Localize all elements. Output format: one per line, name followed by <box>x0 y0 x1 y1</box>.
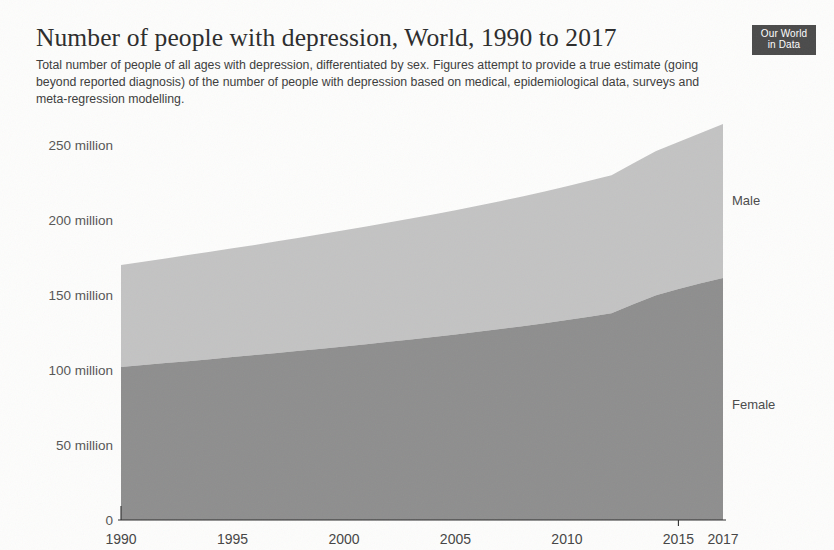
chart-svg: 050 million100 million150 million200 mil… <box>0 0 834 550</box>
x-axis: 1990199520002005201020152017 <box>105 520 738 547</box>
series-label-female: Female <box>732 397 775 412</box>
x-tick-label: 2017 <box>707 531 738 547</box>
chart-page: Number of people with depression, World,… <box>0 0 834 550</box>
y-tick-label: 200 million <box>48 213 113 228</box>
x-tick-label: 2015 <box>663 531 694 547</box>
y-tick-label: 50 million <box>56 438 113 453</box>
stacked-area-chart: 050 million100 million150 million200 mil… <box>0 0 834 550</box>
x-tick-label: 1990 <box>105 531 136 547</box>
y-tick-label: 100 million <box>48 363 113 378</box>
y-tick-label: 0 <box>105 513 113 528</box>
y-tick-label: 250 million <box>48 138 113 153</box>
x-tick-label: 1995 <box>217 531 248 547</box>
series-label-male: Male <box>732 193 760 208</box>
area-bands <box>121 124 723 520</box>
x-tick-label: 2005 <box>440 531 471 547</box>
x-tick-label: 2010 <box>551 531 582 547</box>
y-axis: 050 million100 million150 million200 mil… <box>48 138 113 528</box>
y-tick-label: 150 million <box>48 288 113 303</box>
x-tick-label: 2000 <box>328 531 359 547</box>
